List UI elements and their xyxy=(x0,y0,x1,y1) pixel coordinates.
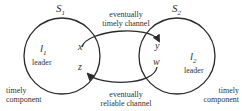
set-s1-circle xyxy=(24,18,100,94)
leader-l1-label: leader xyxy=(32,58,52,67)
right-component-label: timely component xyxy=(195,86,239,104)
set-s1-label: S1 xyxy=(56,4,65,18)
process-y: y xyxy=(155,41,159,50)
eventually-timely-channel-arrow xyxy=(82,31,159,47)
top-channel-label: eventually timely channel xyxy=(101,10,151,28)
process-w: w xyxy=(153,57,160,66)
leader-l2-label: leader xyxy=(184,66,204,75)
set-s2-label: S2 xyxy=(172,4,181,18)
eventually-reliable-channel-arrow xyxy=(88,67,157,82)
leader-l1-symbol: l1 xyxy=(40,44,47,58)
bottom-channel-label: eventually reliable channel xyxy=(99,90,153,108)
left-component-label: timely component xyxy=(6,86,42,104)
process-z: z xyxy=(78,62,82,71)
process-x: x xyxy=(78,42,82,51)
set-s2-circle xyxy=(139,18,215,94)
leader-l2-symbol: l2 xyxy=(190,52,197,66)
